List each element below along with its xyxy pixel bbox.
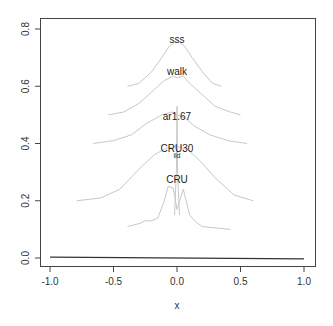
x-tick-label: 0.5 bbox=[234, 276, 248, 287]
curve-walk bbox=[108, 76, 240, 115]
x-tick-label: -0.5 bbox=[105, 276, 123, 287]
curve-cru30 bbox=[77, 146, 254, 200]
y-tick-label: 0.6 bbox=[20, 79, 31, 93]
curve-label-cru: CRU bbox=[166, 174, 188, 185]
curve-label-sss: sss bbox=[170, 34, 185, 45]
curve-label-walk: walk bbox=[166, 66, 188, 77]
baseline-line bbox=[50, 257, 304, 259]
x-axis: -1.0-0.50.00.51.0 bbox=[41, 267, 311, 288]
curve-sss bbox=[128, 40, 222, 86]
y-tick-label: 0.8 bbox=[20, 22, 31, 36]
x-axis-label: x bbox=[175, 300, 180, 311]
y-axis: 0.00.20.40.60.8 bbox=[20, 22, 41, 265]
curve-label-ar1-67: ar1.67 bbox=[163, 111, 192, 122]
x-tick-label: 1.0 bbox=[297, 276, 311, 287]
x-tick-label: 0.0 bbox=[170, 276, 184, 287]
density-chart: -1.0-0.50.00.51.0 0.00.20.40.60.8 ssswal… bbox=[0, 0, 333, 326]
y-tick-label: 0.0 bbox=[20, 251, 31, 265]
y-tick-label: 0.4 bbox=[20, 136, 31, 150]
x-tick-label: -1.0 bbox=[41, 276, 59, 287]
curve-label-iid: iid bbox=[173, 152, 180, 159]
y-tick-label: 0.2 bbox=[20, 193, 31, 207]
